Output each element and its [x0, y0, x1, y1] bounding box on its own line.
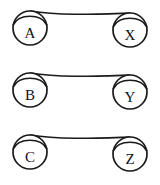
node-label-x: X [125, 27, 136, 43]
node-label-y: Y [125, 89, 136, 105]
node-label-b: B [25, 87, 35, 103]
node-a[interactable]: A [13, 11, 47, 45]
node-pair-row-1: A X [13, 11, 147, 47]
node-x[interactable]: X [113, 13, 147, 47]
pairing-diagram: A X B Y [0, 0, 160, 185]
node-label-z: Z [125, 151, 134, 167]
node-label-c: C [25, 149, 35, 165]
node-b[interactable]: B [13, 73, 47, 107]
node-pair-row-2: B Y [13, 73, 147, 109]
node-y[interactable]: Y [113, 75, 147, 109]
node-label-a: A [25, 25, 36, 41]
link-curve-b-y [30, 73, 130, 76]
node-c[interactable]: C [13, 135, 47, 169]
node-pair-row-3: C Z [13, 135, 147, 171]
link-curve-a-x [30, 11, 130, 14]
pairing-diagram-canvas: A X B Y [0, 0, 160, 185]
node-z[interactable]: Z [113, 137, 147, 171]
link-curve-c-z [30, 135, 130, 138]
